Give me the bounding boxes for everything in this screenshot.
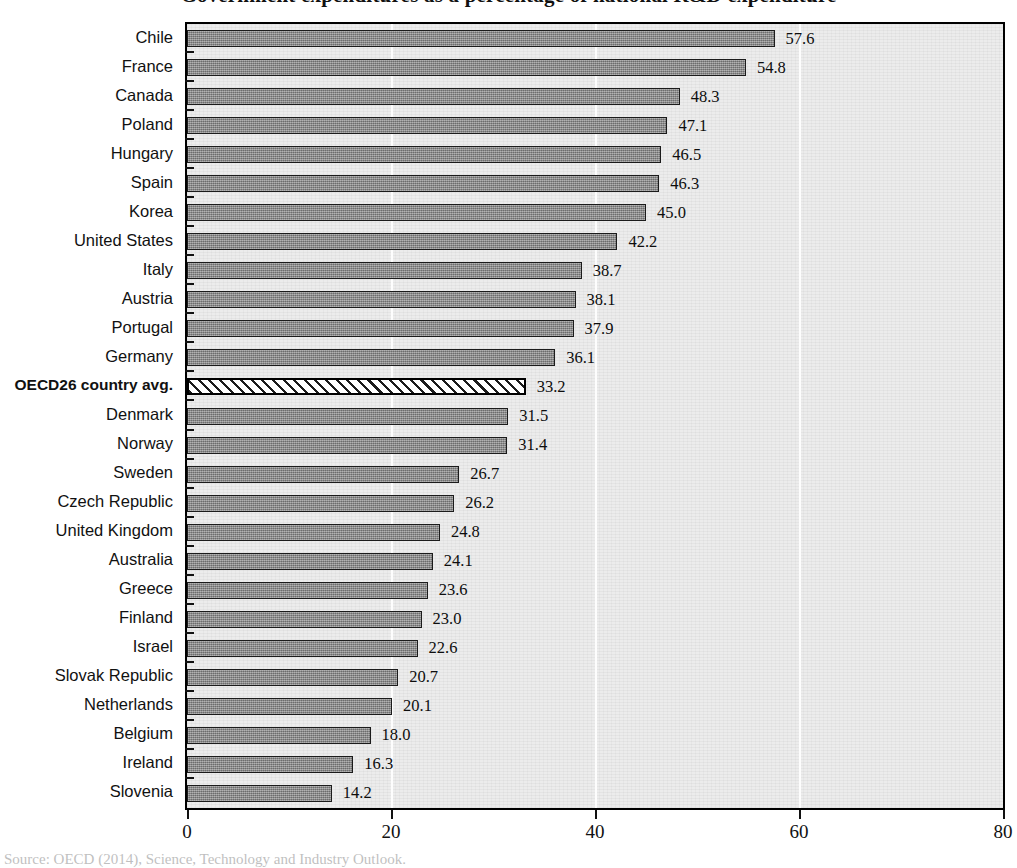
category-tick [185, 312, 194, 314]
category-tick [185, 225, 194, 227]
category-label: Israel [133, 637, 173, 656]
category-label: Portugal [112, 317, 173, 336]
bar-value-label: 24.1 [444, 551, 473, 571]
bar [187, 611, 422, 628]
bar-row: 20.7 [187, 669, 1003, 686]
category-label: Netherlands [84, 695, 173, 714]
category-label: France [122, 56, 173, 75]
bar-average [187, 378, 526, 395]
category-tick [185, 748, 194, 750]
bar [187, 204, 646, 221]
category-label: Spain [131, 172, 173, 191]
category-label: Slovenia [110, 782, 173, 801]
category-tick [185, 690, 194, 692]
category-tick [185, 399, 194, 401]
gridline-80 [1003, 24, 1005, 808]
bar-value-label: 47.1 [678, 116, 707, 136]
bar-row: 33.2 [187, 378, 1003, 395]
category-tick [185, 138, 194, 140]
bar-value-label: 20.1 [403, 696, 432, 716]
category-label: Canada [115, 85, 173, 104]
category-tick [185, 109, 194, 111]
bar [187, 698, 392, 715]
bar [187, 59, 746, 76]
bar [187, 262, 582, 279]
bar-value-label: 18.0 [382, 725, 411, 745]
bar [187, 727, 371, 744]
category-tick [185, 777, 194, 779]
category-label: Czech Republic [57, 492, 173, 511]
bar-value-label: 37.9 [585, 319, 614, 339]
bar-row: 16.3 [187, 756, 1003, 773]
bar-row: 20.1 [187, 698, 1003, 715]
category-label: Chile [135, 27, 173, 46]
bar-row: 14.2 [187, 785, 1003, 802]
bar [187, 553, 433, 570]
category-label: Sweden [113, 463, 173, 482]
bar [187, 233, 617, 250]
bar [187, 495, 454, 512]
bar-value-label: 46.5 [672, 145, 701, 165]
category-tick [185, 196, 194, 198]
bar-value-label: 26.2 [465, 493, 494, 513]
category-label: Italy [143, 259, 173, 278]
bar [187, 408, 508, 425]
bar [187, 88, 680, 105]
category-label: Denmark [106, 405, 173, 424]
bar-row: 26.7 [187, 466, 1003, 483]
bar-row: 26.2 [187, 495, 1003, 512]
category-label: Finland [119, 608, 173, 627]
category-tick [185, 80, 194, 82]
category-label: Norway [117, 434, 173, 453]
bar-value-label: 33.2 [537, 377, 566, 397]
bar-row: 36.1 [187, 349, 1003, 366]
x-tick-60 [799, 810, 801, 819]
bar-row: 38.7 [187, 262, 1003, 279]
x-axis: 020406080 [185, 810, 1005, 850]
bar [187, 785, 332, 802]
category-label: United States [74, 230, 173, 249]
bar [187, 524, 440, 541]
category-tick [185, 283, 194, 285]
bar-value-label: 23.6 [439, 580, 468, 600]
bar [187, 437, 507, 454]
chart-title: Government expenditures as a percentage … [0, 0, 1017, 8]
bar [187, 30, 775, 47]
x-tick-label-80: 80 [994, 821, 1013, 843]
bar [187, 349, 555, 366]
x-tick-label-40: 40 [586, 821, 605, 843]
category-label: Germany [105, 346, 173, 365]
bar-row: 23.6 [187, 582, 1003, 599]
bar-value-label: 46.3 [670, 174, 699, 194]
x-tick-20 [391, 810, 393, 819]
category-tick [185, 458, 194, 460]
bar-row: 46.5 [187, 146, 1003, 163]
category-label: Poland [122, 114, 173, 133]
bar-row: 42.2 [187, 233, 1003, 250]
bar-value-label: 45.0 [657, 203, 686, 223]
bar-row: 47.1 [187, 117, 1003, 134]
bar [187, 640, 418, 657]
category-tick [185, 516, 194, 518]
category-tick [185, 429, 194, 431]
x-tick-label-60: 60 [790, 821, 809, 843]
bar [187, 669, 398, 686]
bar-value-label: 36.1 [566, 348, 595, 368]
bar [187, 466, 459, 483]
bar-row: 31.4 [187, 437, 1003, 454]
x-tick-40 [595, 810, 597, 819]
category-label: Australia [109, 550, 173, 569]
category-label: Slovak Republic [55, 666, 173, 685]
bar-row: 24.1 [187, 553, 1003, 570]
bar-row: 22.6 [187, 640, 1003, 657]
bar-value-label: 48.3 [691, 87, 720, 107]
category-label: OECD26 country avg. [15, 376, 174, 394]
category-label: Greece [119, 579, 173, 598]
bar-value-label: 57.6 [786, 29, 815, 49]
category-tick [185, 661, 194, 663]
x-tick-label-0: 0 [182, 821, 192, 843]
bar [187, 756, 353, 773]
plot-inner: 57.654.848.347.146.546.345.042.238.738.1… [187, 24, 1003, 808]
bar-value-label: 54.8 [757, 58, 786, 78]
category-tick [185, 254, 194, 256]
